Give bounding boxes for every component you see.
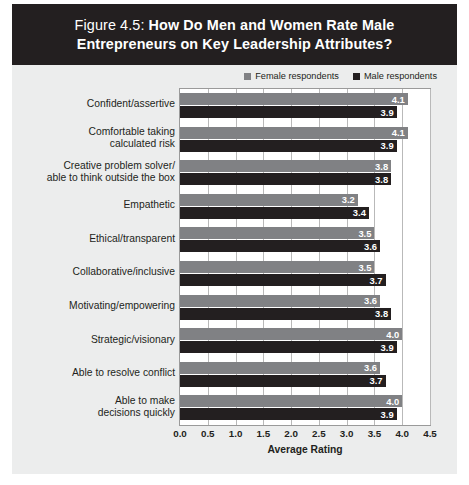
bar-value-label: 3.9 <box>381 409 397 420</box>
bar-male: 3.8 <box>180 308 391 320</box>
x-tick-label: 0.5 <box>201 428 215 439</box>
category-label: Collaborative/inclusive <box>12 266 175 278</box>
bar-value-label: 3.5 <box>358 262 374 273</box>
square-swatch-icon <box>353 73 360 80</box>
category-label-line: decisions quickly <box>12 407 175 419</box>
bar-value-label: 4.1 <box>392 94 408 105</box>
bar-female: 4.1 <box>180 127 408 139</box>
bar-value-label: 3.4 <box>353 207 369 218</box>
category-label-line: able to think outside the box <box>12 172 175 184</box>
category-label-line: Collaborative/inclusive <box>12 266 175 278</box>
bar-male: 3.9 <box>180 140 397 152</box>
square-swatch-icon <box>244 73 251 80</box>
bars-layer: 4.13.94.13.93.83.83.23.43.53.63.53.73.63… <box>180 89 430 425</box>
bar-value-label: 3.2 <box>342 194 358 205</box>
bar-value-label: 3.8 <box>375 308 391 319</box>
category-label: Empathetic <box>12 199 175 211</box>
chart-legend: Female respondentsMale respondents <box>12 68 437 84</box>
category-label: Able to resolve conflict <box>12 367 175 379</box>
page-title: Figure 4.5: How Do Men and Women Rate Ma… <box>38 16 431 54</box>
title-prefix: Figure 4.5: <box>75 17 149 33</box>
category-label-line: Confident/assertive <box>12 98 175 110</box>
bar-female: 3.8 <box>180 160 391 172</box>
plot-area: 4.13.94.13.93.83.83.23.43.53.63.53.73.63… <box>179 88 431 426</box>
bar-group: 4.03.9 <box>180 395 430 425</box>
bar-female: 3.6 <box>180 362 380 374</box>
bar-female: 3.6 <box>180 295 380 307</box>
legend-entry: Female respondents <box>244 71 339 81</box>
bar-male: 3.6 <box>180 240 380 252</box>
category-label-line: Strategic/visionary <box>12 334 175 346</box>
legend-entry: Male respondents <box>353 71 437 81</box>
x-tick-label: 3.0 <box>340 428 354 439</box>
x-tick-label: 4.5 <box>423 428 437 439</box>
bar-female: 3.2 <box>180 194 358 206</box>
bar-value-label: 3.8 <box>375 161 391 172</box>
bar-value-label: 3.6 <box>364 362 380 373</box>
category-label: Motivating/empowering <box>12 300 175 312</box>
figure-title-banner: Figure 4.5: How Do Men and Women Rate Ma… <box>12 4 457 65</box>
bar-value-label: 3.7 <box>370 275 386 286</box>
bar-male: 3.9 <box>180 106 397 118</box>
category-label: Ethical/transparent <box>12 233 175 245</box>
category-label: Confident/assertive <box>12 98 175 110</box>
category-label-line: Able to make <box>12 395 175 407</box>
x-tick-label: 4.0 <box>395 428 409 439</box>
bar-female: 4.0 <box>180 395 402 407</box>
bar-group: 3.63.8 <box>180 295 430 325</box>
bar-male: 3.7 <box>180 274 386 286</box>
bar-group: 3.23.4 <box>180 194 430 224</box>
x-tick-label: 0.0 <box>173 428 187 439</box>
bar-value-label: 4.0 <box>386 396 402 407</box>
bar-group: 3.53.7 <box>180 261 430 291</box>
bar-value-label: 3.8 <box>375 174 391 185</box>
x-tick-label: 3.5 <box>368 428 382 439</box>
bar-female: 3.5 <box>180 261 374 273</box>
bar-value-label: 4.0 <box>386 329 402 340</box>
category-label-line: calculated risk <box>12 138 175 150</box>
x-tick-label: 2.5 <box>312 428 326 439</box>
x-axis-tick-labels: 0.00.51.01.52.02.53.03.54.04.5 <box>179 428 431 442</box>
bar-value-label: 3.9 <box>381 342 397 353</box>
bar-group: 3.63.7 <box>180 362 430 392</box>
bar-group: 3.53.6 <box>180 227 430 257</box>
category-label-line: Motivating/empowering <box>12 300 175 312</box>
bar-value-label: 3.7 <box>370 375 386 386</box>
bar-value-label: 4.1 <box>392 127 408 138</box>
bar-male: 3.4 <box>180 207 369 219</box>
bar-female: 4.1 <box>180 93 408 105</box>
legend-label: Female respondents <box>255 71 339 81</box>
bar-value-label: 3.5 <box>358 228 374 239</box>
legend-label: Male respondents <box>364 71 437 81</box>
category-label-line: Comfortable taking <box>12 126 175 138</box>
category-label: Strategic/visionary <box>12 334 175 346</box>
bar-value-label: 3.9 <box>381 140 397 151</box>
category-label: Comfortable takingcalculated risk <box>12 126 175 150</box>
bar-group: 4.13.9 <box>180 93 430 123</box>
category-label-line: Empathetic <box>12 199 175 211</box>
category-label: Creative problem solver/able to think ou… <box>12 160 175 184</box>
category-label-line: Ethical/transparent <box>12 233 175 245</box>
gridline <box>430 89 431 425</box>
x-tick-label: 2.0 <box>284 428 298 439</box>
y-axis-category-labels: Confident/assertiveComfortable takingcal… <box>12 88 175 426</box>
x-axis-title: Average Rating <box>179 444 431 455</box>
category-label: Able to makedecisions quickly <box>12 395 175 419</box>
bar-male: 3.9 <box>180 408 397 420</box>
bar-female: 3.5 <box>180 227 374 239</box>
x-tick-label: 1.0 <box>229 428 243 439</box>
x-tick-label: 1.5 <box>257 428 271 439</box>
bar-group: 4.13.9 <box>180 127 430 157</box>
category-label-line: Creative problem solver/ <box>12 160 175 172</box>
bar-value-label: 3.6 <box>364 241 380 252</box>
bar-male: 3.7 <box>180 375 386 387</box>
bar-group: 3.83.8 <box>180 160 430 190</box>
bar-value-label: 3.6 <box>364 295 380 306</box>
bar-value-label: 3.9 <box>381 107 397 118</box>
bar-female: 4.0 <box>180 328 402 340</box>
figure-container: Figure 4.5: How Do Men and Women Rate Ma… <box>12 4 457 474</box>
category-label-line: Able to resolve conflict <box>12 367 175 379</box>
bar-male: 3.8 <box>180 173 391 185</box>
bar-group: 4.03.9 <box>180 328 430 358</box>
bar-male: 3.9 <box>180 341 397 353</box>
